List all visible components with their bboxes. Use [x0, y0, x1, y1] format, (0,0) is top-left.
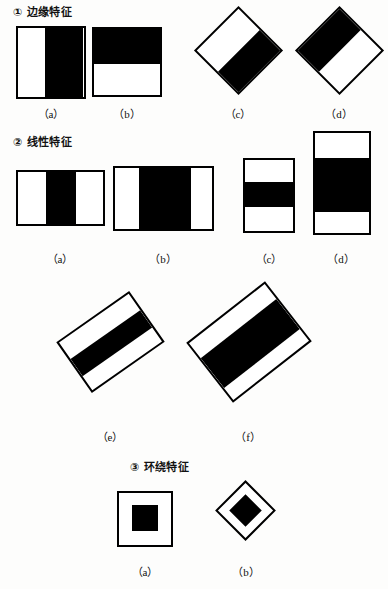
black-region: [245, 182, 293, 207]
section-heading-line-features: ② 线性特征: [13, 133, 72, 149]
shape-two-rect-horizontal: [92, 27, 162, 97]
shape-two-rect-vertical: [16, 26, 86, 99]
caption-line-e: （e）: [79, 428, 141, 444]
shape-three-rect-horizontal: [243, 158, 295, 233]
shape-two-rect-vertical-rotated: [295, 6, 384, 95]
shape-two-rect-vertical-rotated: [194, 6, 283, 95]
shape-three-rect-horizontal-rotated: [56, 291, 164, 393]
section-heading-edge-features: ① 边缘特征: [13, 3, 72, 19]
black-region: [229, 494, 262, 527]
black-region: [45, 28, 83, 97]
black-region: [139, 168, 191, 229]
figure-page: ① 边缘特征 （a） （b） （c） （d） ② 线性特征 （a）: [0, 0, 388, 589]
black-region: [71, 310, 153, 376]
black-region: [46, 172, 76, 224]
caption-edge-d: （d）: [308, 105, 370, 121]
section-heading-surround-features: ③ 环绕特征: [130, 458, 189, 474]
caption-edge-a: （a）: [20, 105, 82, 121]
caption-line-b: （b）: [132, 250, 194, 266]
black-region: [218, 30, 281, 93]
caption-edge-c: （c）: [207, 105, 269, 121]
black-region: [94, 29, 160, 64]
shape-three-rect-horizontal-rotated: [186, 281, 312, 402]
black-region: [132, 505, 158, 531]
caption-line-c: （c）: [238, 250, 300, 266]
caption-line-d: （d）: [310, 250, 372, 266]
caption-edge-b: （b）: [96, 105, 158, 121]
caption-surround-b: （b）: [215, 563, 277, 579]
shape-three-rect-vertical: [16, 170, 105, 226]
shape-three-rect-horizontal: [313, 131, 371, 235]
caption-line-a: （a）: [29, 250, 91, 266]
black-region: [298, 9, 361, 72]
black-region: [315, 158, 369, 212]
shape-center-surround: [117, 491, 173, 547]
shape-center-surround-rotated: [215, 480, 276, 541]
shape-three-rect-vertical: [113, 166, 214, 231]
caption-line-f: （f）: [217, 428, 279, 444]
black-region: [201, 299, 300, 388]
caption-surround-a: （a）: [114, 563, 176, 579]
